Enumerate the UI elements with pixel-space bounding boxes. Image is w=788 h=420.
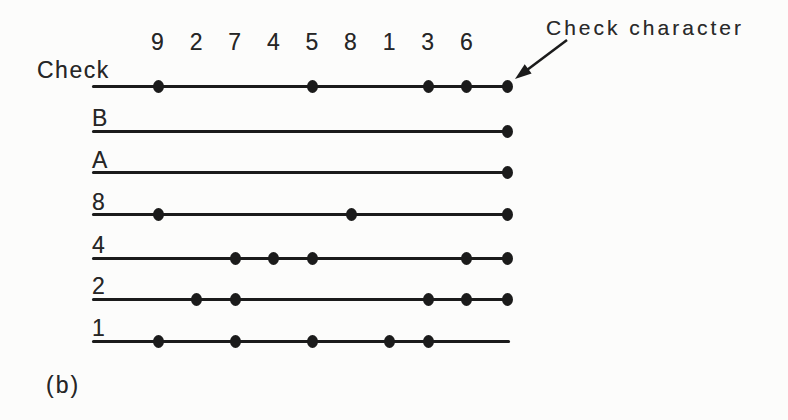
check-dot <box>502 166 513 179</box>
data-dot <box>423 80 434 93</box>
column-label-2: 2 <box>184 31 210 54</box>
parity-check-diagram: 927458136 CheckBA8421 Check character (b… <box>0 0 788 420</box>
data-dot <box>461 252 472 265</box>
check-character-arrow <box>0 0 788 420</box>
track-line-2 <box>92 298 510 301</box>
row-label-b: B <box>92 107 109 130</box>
check-dot <box>502 293 513 306</box>
data-dot <box>153 80 164 93</box>
track-line-b <box>92 130 510 133</box>
data-dot <box>191 293 202 306</box>
data-dot <box>346 208 357 221</box>
check-dot <box>502 208 513 221</box>
data-dot <box>423 335 434 348</box>
arrow-shaft <box>527 40 567 70</box>
data-dot <box>230 252 241 265</box>
column-label-5: 5 <box>299 31 325 54</box>
check-dot <box>502 252 513 265</box>
figure-caption: (b) <box>46 373 80 397</box>
data-dot <box>307 252 318 265</box>
column-label-8: 8 <box>338 31 364 54</box>
data-dot <box>423 293 434 306</box>
row-label-1: 1 <box>92 317 106 340</box>
column-label-6: 6 <box>454 31 480 54</box>
data-dot <box>153 335 164 348</box>
data-dot <box>307 335 318 348</box>
track-line-4 <box>92 257 510 260</box>
data-dot <box>153 208 164 221</box>
column-label-7: 7 <box>222 31 248 54</box>
column-label-9: 9 <box>145 31 171 54</box>
data-dot <box>384 335 395 348</box>
column-label-1: 1 <box>377 31 403 54</box>
row-label-check: Check <box>37 59 110 82</box>
column-label-3: 3 <box>415 31 441 54</box>
row-label-4: 4 <box>92 234 106 257</box>
data-dot <box>461 293 472 306</box>
data-dot <box>230 335 241 348</box>
check-dot <box>502 125 513 138</box>
data-dot <box>230 293 241 306</box>
data-dot <box>461 80 472 93</box>
check-character-label: Check character <box>546 17 744 39</box>
row-label-a: A <box>92 149 109 172</box>
check-dot <box>502 80 513 93</box>
track-line-a <box>92 171 510 174</box>
data-dot <box>268 252 279 265</box>
row-label-8: 8 <box>92 191 106 214</box>
data-dot <box>307 80 318 93</box>
arrowhead-icon <box>515 64 532 79</box>
row-label-2: 2 <box>92 275 106 298</box>
column-label-4: 4 <box>261 31 287 54</box>
